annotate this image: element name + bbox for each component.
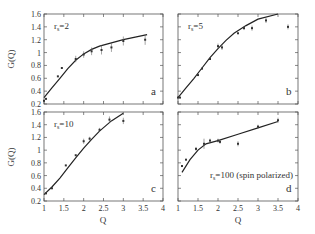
theory-curve	[44, 35, 147, 98]
plot-frame	[178, 112, 298, 201]
data-point	[277, 119, 279, 121]
y-tick-label: 0.8	[31, 159, 41, 168]
panel-annotation: rs=10	[54, 119, 74, 130]
figure: 0.20.40.60.811.21.41.6rs=2ars=5b11.522.5…	[0, 0, 315, 234]
data-point	[51, 187, 53, 189]
data-point	[257, 126, 259, 128]
x-tick-label: 1	[42, 204, 46, 213]
data-point	[108, 119, 110, 121]
x-tick-label: 2	[216, 204, 220, 213]
data-point	[75, 154, 77, 156]
data-point	[221, 46, 223, 48]
data-point	[265, 19, 267, 21]
data-point	[61, 67, 63, 69]
y-tick-label: 1.6	[31, 10, 41, 19]
data-point	[83, 54, 85, 56]
data-point	[99, 129, 101, 131]
y-axis-label: G(Q)	[6, 148, 16, 167]
data-point	[287, 26, 289, 28]
x-tick-label: 2.5	[233, 204, 243, 213]
data-point	[75, 58, 77, 60]
x-tick-label: 3.5	[138, 204, 148, 213]
x-tick-label: 3	[256, 204, 260, 213]
y-tick-label: 1.2	[31, 36, 41, 45]
y-tick-label: 0.6	[31, 74, 41, 83]
y-tick-label: 0.8	[31, 61, 41, 70]
y-tick-label: 1	[37, 146, 41, 155]
panel-annotation: rs=5	[188, 21, 203, 32]
data-point	[122, 120, 124, 122]
data-point	[65, 164, 67, 166]
data-point	[89, 138, 91, 140]
panel-d: 11.522.533.54rs=100 (spin polarized)d	[176, 112, 300, 213]
x-tick-label: 2	[82, 204, 86, 213]
data-point	[45, 192, 47, 194]
y-tick-label: 0.4	[31, 184, 41, 193]
data-point	[217, 45, 219, 47]
x-tick-label: 4	[296, 204, 300, 213]
x-tick-label: 1.5	[59, 204, 69, 213]
data-point	[91, 50, 93, 52]
data-point	[209, 58, 211, 60]
data-point	[179, 97, 181, 99]
data-point	[209, 140, 211, 142]
panel-annotation: rs=100 (spin polarized)	[210, 170, 293, 181]
data-point	[237, 143, 239, 145]
data-point	[197, 74, 199, 76]
data-point	[57, 75, 59, 77]
panel-a: 0.20.40.60.811.21.41.6rs=2a	[31, 10, 163, 109]
y-tick-label: 0.2	[31, 197, 41, 206]
y-tick-label: 1	[37, 49, 41, 58]
x-tick-label: 3	[121, 204, 125, 213]
y-tick-label: 0.4	[31, 87, 41, 96]
y-tick-label: 1.4	[31, 23, 41, 32]
data-point	[181, 165, 183, 167]
data-point	[101, 49, 103, 51]
y-tick-label: 0.6	[31, 172, 41, 181]
data-point	[203, 143, 205, 145]
data-point	[83, 140, 85, 142]
panel-letter: a	[151, 85, 156, 97]
data-point	[43, 100, 45, 102]
data-point	[243, 27, 245, 29]
data-point	[45, 98, 47, 100]
y-axis-label: G(Q)	[6, 50, 16, 69]
panel-letter: b	[286, 85, 292, 97]
data-point	[185, 159, 187, 161]
panel-annotation: rs=2	[54, 21, 69, 32]
data-point	[251, 27, 253, 29]
x-axis-label: Q	[100, 215, 107, 225]
x-tick-label: 3.5	[273, 204, 283, 213]
x-tick-label: 1.5	[193, 204, 203, 213]
y-tick-label: 1.4	[31, 121, 41, 130]
x-tick-label: 4	[161, 204, 165, 213]
x-axis-label: Q	[235, 215, 242, 225]
data-point	[217, 140, 219, 142]
y-tick-label: 1.6	[31, 108, 41, 117]
data-point	[195, 148, 197, 150]
data-point	[219, 141, 221, 143]
data-point	[201, 68, 203, 70]
data-point	[237, 32, 239, 34]
x-tick-label: 1	[176, 204, 180, 213]
data-point	[144, 39, 146, 41]
data-point	[110, 46, 112, 48]
data-point	[122, 40, 124, 42]
data-point	[177, 97, 179, 99]
theory-curve	[182, 122, 278, 173]
x-tick-label: 2.5	[99, 204, 109, 213]
panel-letter: d	[286, 182, 292, 194]
panel-letter: c	[151, 182, 156, 194]
panel-b: rs=5b	[177, 14, 298, 104]
panel-c: 11.522.533.540.20.40.60.811.21.41.6rs=10…	[31, 108, 165, 213]
y-tick-label: 1.2	[31, 133, 41, 142]
